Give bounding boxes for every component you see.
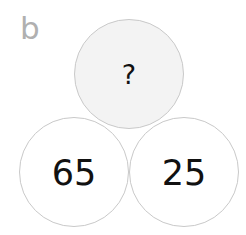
bottom-left-circle: 65	[19, 117, 129, 227]
bottom-right-circle: 25	[129, 117, 239, 227]
top-circle-unknown: ?	[74, 19, 184, 129]
top-circle-value: ?	[122, 61, 136, 88]
panel-label: b	[20, 13, 40, 44]
bottom-left-circle-value: 65	[52, 156, 97, 191]
bottom-right-circle-value: 25	[162, 156, 207, 191]
